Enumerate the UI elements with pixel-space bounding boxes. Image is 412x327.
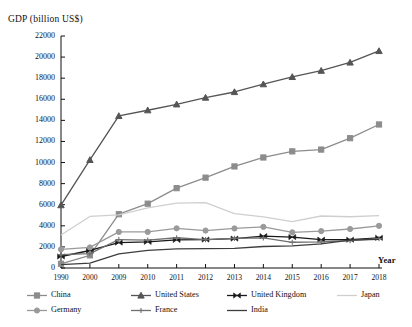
legend-label: Japan xyxy=(361,291,380,299)
y-tick-4000: 4000 xyxy=(21,221,55,230)
legend-swatch-plus-icon xyxy=(130,306,152,315)
y-tick-22000: 22000 xyxy=(21,31,55,40)
series-germany xyxy=(58,223,381,252)
series-lines xyxy=(58,48,383,267)
legend-label: United States xyxy=(155,291,199,299)
legend-label: France xyxy=(155,306,177,314)
legend-swatch-triangle-icon xyxy=(130,291,152,300)
legend-swatch-circle-icon xyxy=(26,306,48,315)
series-united-kingdom xyxy=(58,234,383,260)
legend-label: India xyxy=(251,306,268,314)
legend-row-1: ChinaUnited StatesUnited KingdomJapan xyxy=(26,288,398,303)
y-tick-10000: 10000 xyxy=(21,158,55,167)
legend-item-japan[interactable]: Japan xyxy=(336,291,380,300)
legend-swatch-square-icon xyxy=(26,291,48,300)
y-tick-0: 0 xyxy=(21,263,55,272)
y-tick-14000: 14000 xyxy=(21,115,55,124)
series-india xyxy=(61,239,379,264)
y-tick-20000: 20000 xyxy=(21,52,55,61)
legend-item-france[interactable]: France xyxy=(130,306,177,315)
legend-label: United Kingdom xyxy=(251,291,306,299)
legend-item-germany[interactable]: Germany xyxy=(26,306,81,315)
legend-swatch-none-icon xyxy=(226,306,248,315)
y-tick-18000: 18000 xyxy=(21,73,55,82)
y-tick-16000: 16000 xyxy=(21,94,55,103)
legend-label: Germany xyxy=(51,306,81,314)
legend-label: China xyxy=(51,291,71,299)
legend-swatch-none-icon xyxy=(336,291,358,300)
y-tick-6000: 6000 xyxy=(21,200,55,209)
legend-swatch-bowtie-icon xyxy=(226,291,248,300)
legend-item-china[interactable]: China xyxy=(26,291,71,300)
legend-row-2: GermanyFranceIndia xyxy=(26,303,398,318)
gdp-line-chart: GDP (billion US$) Year 02000400060008000… xyxy=(0,0,412,327)
legend-item-united-kingdom[interactable]: United Kingdom xyxy=(226,291,306,300)
legend-item-united-states[interactable]: United States xyxy=(130,291,199,300)
y-tick-12000: 12000 xyxy=(21,136,55,145)
y-tick-2000: 2000 xyxy=(21,242,55,251)
x-tick-2018: 2018 xyxy=(362,273,396,282)
chart-legend: ChinaUnited StatesUnited KingdomJapan Ge… xyxy=(26,288,398,318)
axes xyxy=(61,36,382,268)
legend-item-india[interactable]: India xyxy=(226,306,268,315)
y-tick-8000: 8000 xyxy=(21,179,55,188)
series-united-states xyxy=(58,48,382,208)
